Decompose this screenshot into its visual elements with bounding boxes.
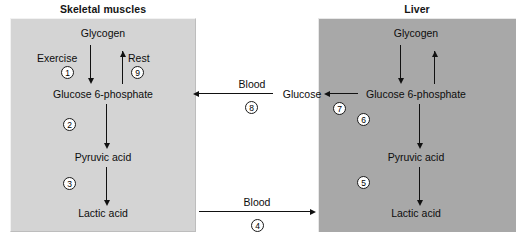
muscle-glycogen-label: Glycogen (81, 27, 125, 39)
step-marker-4: 4 (251, 219, 264, 232)
skeletal-muscle-title: Skeletal muscles (10, 3, 196, 15)
step-marker-9: 9 (131, 66, 144, 79)
step-marker-7: 7 (333, 102, 346, 115)
liver-lactic-acid-label: Lactic acid (391, 207, 441, 219)
cori-cycle-diagram: Skeletal muscles Liver Glycogen Exercise… (0, 0, 516, 241)
step-marker-1: 1 (61, 66, 74, 79)
step-marker-6: 6 (357, 113, 370, 126)
muscle-glucose-6-phosphate-label: Glucose 6-phosphate (53, 88, 153, 100)
liver-glucose-6-phosphate-label: Glucose 6-phosphate (366, 88, 466, 100)
blood-transport-label-top: Blood (239, 78, 266, 90)
exercise-label: Exercise (37, 52, 77, 64)
blood-transport-label-bottom: Blood (244, 196, 271, 208)
liver-glycogen-label: Glycogen (394, 27, 438, 39)
step-marker-8: 8 (245, 101, 258, 114)
muscle-pyruvic-acid-label: Pyruvic acid (75, 151, 132, 163)
liver-title: Liver (318, 3, 516, 15)
liver-glucose-label: Glucose (283, 88, 322, 100)
rest-label: Rest (128, 52, 150, 64)
liver-pyruvic-acid-label: Pyruvic acid (388, 151, 445, 163)
step-marker-5: 5 (357, 176, 370, 189)
muscle-lactic-acid-label: Lactic acid (78, 207, 128, 219)
step-marker-3: 3 (63, 177, 76, 190)
step-marker-2: 2 (63, 118, 76, 131)
